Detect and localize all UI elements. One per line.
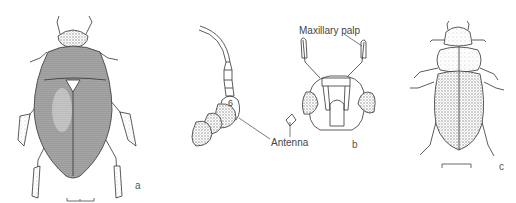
antenna-detail-drawing: [192, 26, 240, 146]
scale-bar-c: [442, 164, 471, 168]
head-frontal-drawing: [286, 38, 375, 130]
panel-label-b: b: [352, 140, 358, 150]
panel-label-a: a: [135, 181, 141, 191]
antenna-label: Antenna: [271, 138, 308, 148]
panel-label-c: c: [499, 162, 504, 172]
scale-bar-a: [67, 198, 94, 201]
segment-number-label: 6: [228, 99, 233, 108]
beetle-a-drawing: [18, 16, 136, 198]
beetle-c-drawing: [410, 21, 504, 156]
antenna-leader-lines: [239, 118, 290, 139]
maxillary-palp-label: Maxillary palp: [299, 26, 360, 36]
figure-illustration: [0, 0, 516, 203]
